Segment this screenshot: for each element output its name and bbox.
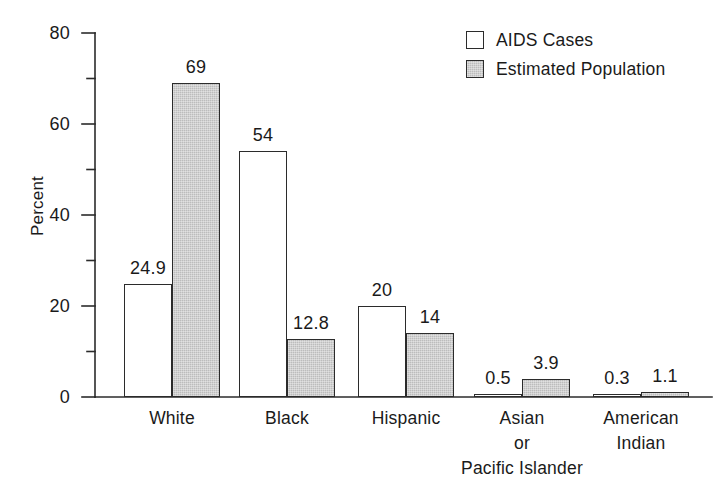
legend-item-label: AIDS Cases [496,31,593,49]
x-axis-category-label: American Indian [561,406,721,456]
y-axis-tick-label-0: 0 [28,388,70,406]
bar-chart: Percent 020406080 24.954200.50.36912.814… [0,0,725,487]
bar-value-label: 1.1 [625,367,705,385]
chart-legend: AIDS CasesEstimated Population [466,25,665,83]
bar-value-label: 69 [156,58,236,76]
y-axis-tick-label-20: 20 [28,297,70,315]
y-axis-tick-label-80: 80 [28,24,70,42]
bar [239,151,287,397]
bar [287,339,335,397]
bar [172,83,220,397]
bar-value-label: 12.8 [271,314,351,332]
y-axis-tick-label-60: 60 [28,115,70,133]
legend-item-label: Estimated Population [496,60,665,78]
legend-swatch-icon [466,31,484,49]
legend-swatch-icon [466,60,484,78]
bar [406,333,454,397]
bar-value-label: 54 [223,126,303,144]
legend-item: Estimated Population [466,54,665,83]
bar [593,394,641,397]
bar-value-label: 20 [342,281,422,299]
bar-value-label: 14 [390,308,470,326]
bar-value-label: 24.9 [108,259,188,277]
bar [641,392,689,397]
y-axis-tick-label-40: 40 [28,206,70,224]
bar [474,394,522,397]
bar [124,284,172,397]
bar-value-label: 3.9 [506,354,586,372]
legend-item: AIDS Cases [466,25,665,54]
